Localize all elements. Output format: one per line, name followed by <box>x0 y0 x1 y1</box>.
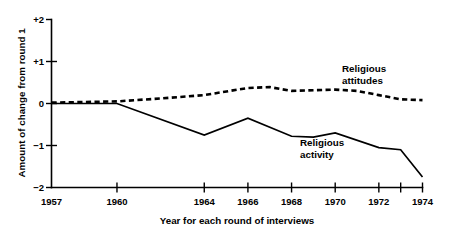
series-annotation-line2: activity <box>300 149 344 161</box>
y-tick-label: −2 <box>14 183 44 193</box>
y-tick-label: +1 <box>14 57 44 67</box>
chart-figure: Amount of change from round 1 Year for e… <box>0 0 457 240</box>
series-annotation-religious-activity: Religious activity <box>300 137 344 161</box>
x-tick-label: 1972 <box>359 197 399 207</box>
x-tick-label: 1964 <box>184 197 224 207</box>
x-tick-label: 1966 <box>228 197 268 207</box>
y-tick-label: −1 <box>14 141 44 151</box>
x-axis-title: Year for each round of interviews <box>51 216 423 226</box>
x-tick-label: 1968 <box>272 197 312 207</box>
series-annotation-line1: Religious <box>300 137 344 149</box>
series-line-religious-activity <box>52 104 423 178</box>
series-annotation-line2: attitudes <box>342 75 386 87</box>
series-annotation-religious-attitudes: Religious attitudes <box>342 63 386 87</box>
x-tick-label: 1970 <box>315 197 355 207</box>
y-tick-label: +2 <box>14 15 44 25</box>
series-line-religious-attitudes <box>52 87 423 103</box>
series-annotation-line1: Religious <box>342 63 386 75</box>
x-tick-label: 1960 <box>97 197 137 207</box>
x-tick-label: 1974 <box>403 197 443 207</box>
x-tick-label: 1957 <box>32 197 72 207</box>
y-tick-label: 0 <box>14 99 44 109</box>
